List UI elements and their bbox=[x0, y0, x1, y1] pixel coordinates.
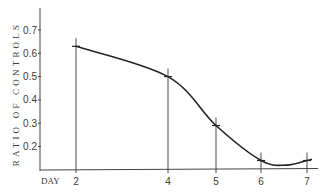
y-axis-label: RATIO OF CONTROLS bbox=[11, 22, 21, 166]
ratio-of-controls-chart: 0.20.30.40.50.60.7 24567 RATIO OF CONTRO… bbox=[0, 0, 330, 194]
y-axis-ticks: 0.20.30.40.50.60.7 bbox=[23, 25, 41, 153]
x-tick-label: 7 bbox=[304, 176, 310, 187]
x-tick-label: 4 bbox=[165, 176, 171, 187]
y-tick-label: 0.4 bbox=[23, 94, 37, 105]
y-tick-label: 0.7 bbox=[23, 25, 37, 36]
data-curve bbox=[76, 46, 312, 165]
y-tick-label: 0.6 bbox=[23, 48, 37, 59]
axes bbox=[40, 8, 318, 171]
x-tick-label: 2 bbox=[73, 176, 79, 187]
x-axis-line bbox=[40, 169, 318, 171]
y-tick-label: 0.2 bbox=[23, 141, 37, 152]
x-axis-label: DAY bbox=[41, 176, 60, 186]
x-axis-ticks: 24567 bbox=[73, 176, 310, 187]
x-tick-label: 5 bbox=[213, 176, 219, 187]
data-markers bbox=[72, 46, 311, 160]
x-tick-label: 6 bbox=[258, 176, 264, 187]
y-tick-label: 0.3 bbox=[23, 118, 37, 129]
y-tick-label: 0.5 bbox=[23, 71, 37, 82]
drop-lines bbox=[76, 38, 307, 173]
